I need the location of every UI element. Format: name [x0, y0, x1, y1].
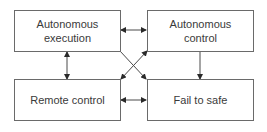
node-label: Autonomous control	[170, 17, 232, 45]
edge-remote-control	[121, 51, 147, 79]
edge-exec-failsafe	[120, 51, 146, 79]
node-autonomous-execution: Autonomous execution	[14, 10, 121, 52]
node-remote-control: Remote control	[14, 79, 121, 121]
node-fail-to-safe: Fail to safe	[147, 79, 254, 121]
node-label: Remote control	[30, 93, 105, 107]
node-label: Autonomous execution	[37, 17, 99, 45]
node-label: Fail to safe	[174, 93, 228, 107]
node-autonomous-control: Autonomous control	[147, 10, 254, 52]
